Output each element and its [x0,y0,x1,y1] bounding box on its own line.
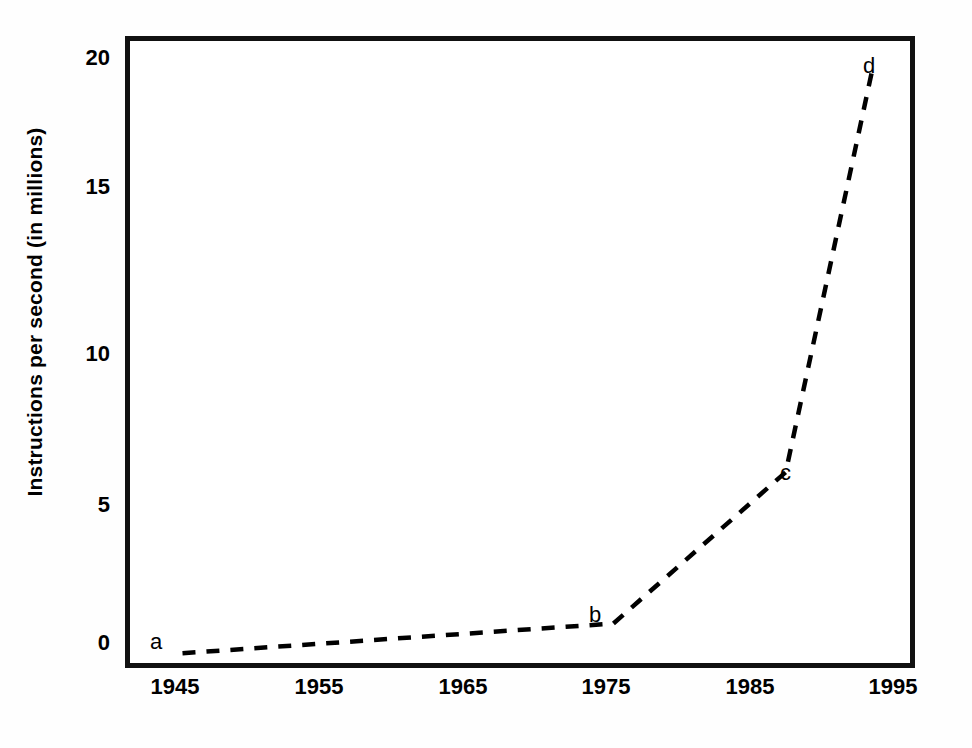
data-series-layer [125,36,915,668]
point-label-a: a [150,631,162,653]
y-tick-label-0: 0 [66,632,110,654]
series-line-dashed [183,72,872,654]
y-tick-label-15: 15 [66,176,110,198]
point-label-c: c [780,462,791,484]
point-label-d: d [863,55,875,77]
x-tick-label-1965: 1965 [415,676,511,698]
x-tick-label-1985: 1985 [702,676,798,698]
point-label-b: b [589,604,601,626]
y-tick-label-20: 20 [66,47,110,69]
x-tick-label-1975: 1975 [558,676,654,698]
y-tick-label-10: 10 [66,343,110,365]
x-tick-label-1955: 1955 [271,676,367,698]
x-tick-label-1995: 1995 [845,676,941,698]
y-axis-title: Instructions per second (in millions) [23,12,47,612]
chart-figure: Instructions per second (in millions) 20… [0,0,972,748]
y-tick-label-5: 5 [66,494,110,516]
x-tick-label-1945: 1945 [127,676,223,698]
